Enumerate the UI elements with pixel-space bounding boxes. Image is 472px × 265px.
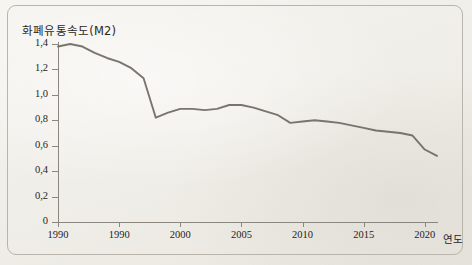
chart-figure: 화폐유통속도(M2) 1,41,21,00,80,60,40,20 199019… — [0, 0, 472, 265]
x-axis-title: 연도 — [443, 231, 463, 246]
velocity-line-series — [58, 44, 437, 156]
series-layer — [0, 0, 472, 265]
plot-area: 화폐유통속도(M2) 1,41,21,00,80,60,40,20 199019… — [0, 0, 472, 265]
